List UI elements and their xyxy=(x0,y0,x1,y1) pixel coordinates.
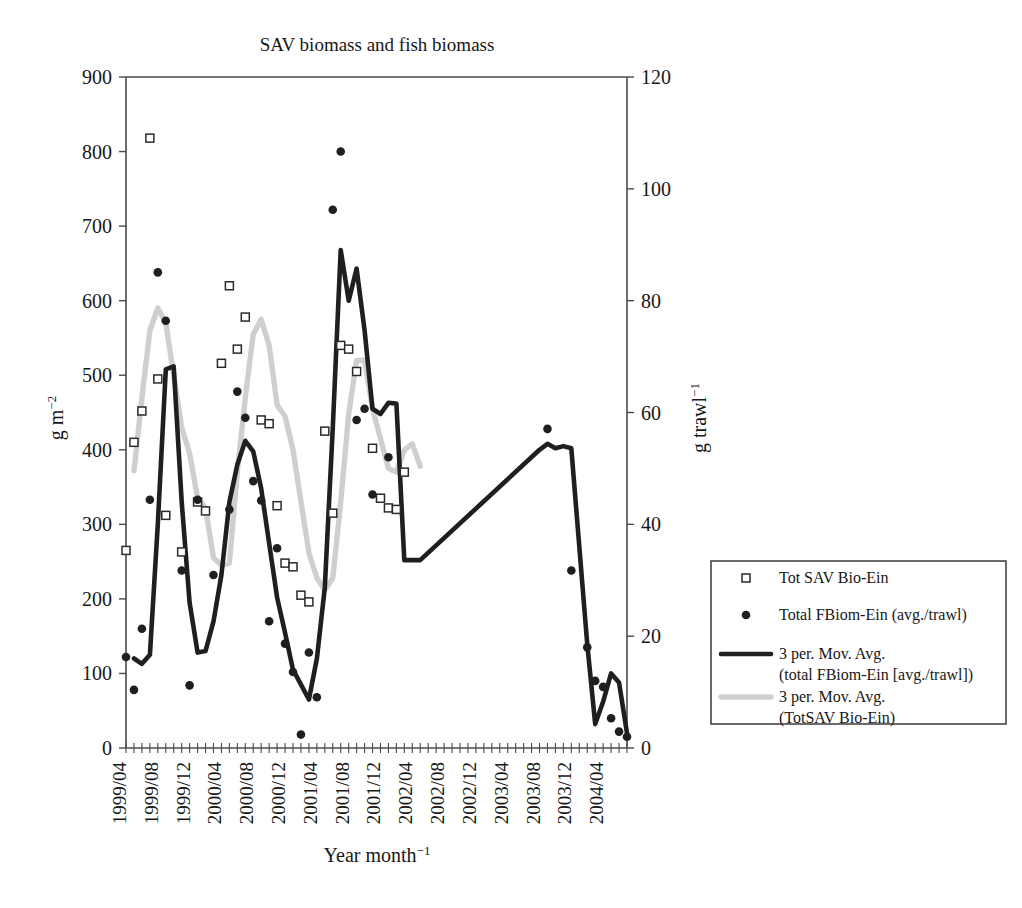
y-tick-label: 800 xyxy=(82,141,112,163)
fish-marker xyxy=(154,268,163,277)
x-tick-label: 1999/12 xyxy=(173,762,194,824)
y2-tick-label: 120 xyxy=(641,66,671,88)
sav-marker xyxy=(305,598,313,606)
legend-label: Total FBiom-Ein (avg./trawl) xyxy=(779,606,967,624)
y-tick-label: 400 xyxy=(82,439,112,461)
chart-svg: SAV biomass and fish biomass 01002003004… xyxy=(0,0,1022,908)
chart-title: SAV biomass and fish biomass xyxy=(260,34,495,55)
x-axis-title: Year month−1 xyxy=(324,843,431,867)
sav-marker xyxy=(376,494,384,502)
y-tick-label: 600 xyxy=(82,290,112,312)
y-tick-label: 0 xyxy=(102,737,112,759)
fish-marker xyxy=(384,453,393,462)
y-tick-label: 700 xyxy=(82,215,112,237)
sav-marker xyxy=(217,359,225,367)
fish-marker xyxy=(281,639,290,648)
fish-marker xyxy=(225,505,234,514)
fish-marker xyxy=(567,566,576,575)
fish-marker xyxy=(297,730,306,739)
chart-figure: SAV biomass and fish biomass 01002003004… xyxy=(0,0,1022,908)
legend-open-square-icon xyxy=(742,574,750,582)
x-tick-label: 2003/12 xyxy=(554,762,575,824)
sav-marker xyxy=(400,468,408,476)
sav-marker xyxy=(384,504,392,512)
sav-marker xyxy=(337,341,345,349)
sav-marker xyxy=(369,444,377,452)
x-tick-label: 1999/04 xyxy=(109,762,130,825)
sav-marker xyxy=(138,407,146,415)
y2-tick-label: 60 xyxy=(641,402,661,424)
legend-filled-circle-icon xyxy=(742,611,751,620)
sav-marker xyxy=(353,367,361,375)
x-tick-label: 2003/08 xyxy=(523,762,544,824)
fish-marker xyxy=(360,404,369,413)
sav-marker xyxy=(178,548,186,556)
sav-marker xyxy=(329,509,337,517)
y2-tick-label: 80 xyxy=(641,290,661,312)
x-tick-label: 2001/12 xyxy=(363,762,384,824)
fish-marker xyxy=(615,727,624,736)
sav-marker xyxy=(321,427,329,435)
fish-marker xyxy=(265,617,274,626)
fish-marker xyxy=(368,490,377,499)
sav-marker xyxy=(345,345,353,353)
fish-marker xyxy=(177,566,186,575)
legend-label: 3 per. Mov. Avg. xyxy=(779,688,885,706)
fish-marker xyxy=(138,624,147,633)
fish-marker xyxy=(130,686,139,695)
y-tick-label: 300 xyxy=(82,513,112,535)
x-tick-label: 2000/12 xyxy=(268,762,289,824)
sav-marker xyxy=(281,559,289,567)
sav-marker xyxy=(297,591,305,599)
sav-marker xyxy=(241,313,249,321)
fish-marker xyxy=(146,495,155,504)
sav-marker xyxy=(162,511,170,519)
fish-marker xyxy=(233,387,242,396)
x-tick-label: 2004/04 xyxy=(586,762,607,825)
y-tick-label: 900 xyxy=(82,66,112,88)
fish-marker xyxy=(543,425,552,434)
fish-marker xyxy=(161,316,170,325)
x-tick-label: 2001/04 xyxy=(300,762,321,825)
sav-marker xyxy=(154,375,162,383)
fish-marker xyxy=(241,413,250,422)
x-tick-label: 2000/08 xyxy=(236,762,257,824)
y-tick-label: 500 xyxy=(82,364,112,386)
fish-marker xyxy=(591,677,600,686)
y2-tick-label: 20 xyxy=(641,625,661,647)
x-tick-label: 2002/08 xyxy=(427,762,448,824)
legend-label: Tot SAV Bio-Ein xyxy=(779,569,888,586)
legend-label-second-line: (total FBiom-Ein [avg./trawl]) xyxy=(779,666,973,684)
fish-marker xyxy=(336,147,345,156)
y-tick-label: 100 xyxy=(82,662,112,684)
y-tick-label: 200 xyxy=(82,588,112,610)
fish-marker xyxy=(599,683,608,692)
sav-marker xyxy=(273,502,281,510)
fish-marker xyxy=(305,648,314,657)
sav-marker xyxy=(130,438,138,446)
fish-marker xyxy=(185,681,194,690)
fish-marker xyxy=(122,653,131,662)
sav-marker xyxy=(233,345,241,353)
sav-marker xyxy=(265,420,273,428)
fish-marker xyxy=(352,416,361,425)
y2-tick-label: 40 xyxy=(641,513,661,535)
fish-marker xyxy=(273,544,282,553)
x-tick-label: 2001/08 xyxy=(332,762,353,824)
x-tick-label: 2002/12 xyxy=(459,762,480,824)
fish-marker xyxy=(209,571,218,580)
x-tick-label: 2002/04 xyxy=(395,762,416,825)
sav-marker xyxy=(392,505,400,513)
legend-label-second-line: (TotSAV Bio-Ein) xyxy=(779,709,895,727)
fish-marker xyxy=(313,693,322,702)
y2-tick-label: 0 xyxy=(641,737,651,759)
y2-tick-label: 100 xyxy=(641,178,671,200)
sav-marker xyxy=(202,507,210,515)
fish-marker xyxy=(257,496,266,505)
sav-marker xyxy=(122,546,130,554)
fish-marker xyxy=(583,643,592,652)
sav-marker xyxy=(257,416,265,424)
fish-marker xyxy=(607,714,616,723)
sav-marker xyxy=(146,134,154,142)
x-tick-label: 2003/04 xyxy=(491,762,512,825)
